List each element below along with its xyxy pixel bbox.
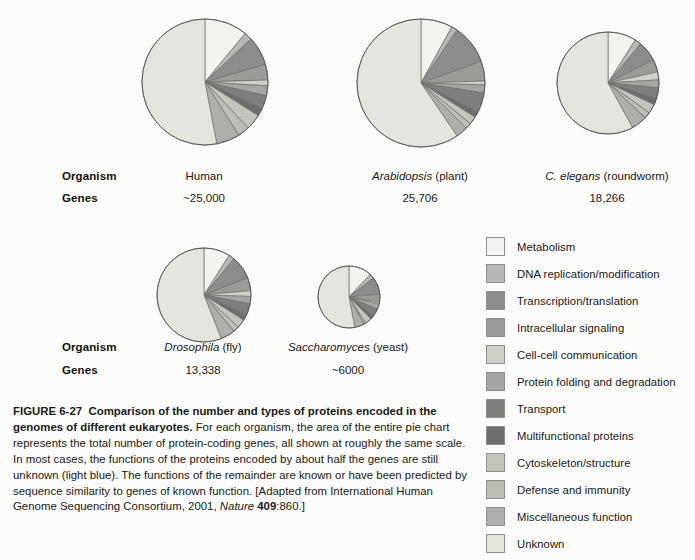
row-label-genes-top: Genes: [62, 192, 98, 204]
row-label-organism-top: Organism: [62, 170, 116, 182]
row-label-organism-bottom: Organism: [62, 341, 116, 353]
pie-chart-drosophila: [156, 247, 252, 343]
legend-label: Transport: [517, 403, 565, 415]
legend-label: Transcription/translation: [517, 295, 638, 307]
source-journal: Nature: [220, 500, 254, 512]
legend-swatch-icon: [486, 318, 505, 337]
organism-common-arabidopsis: (plant): [432, 170, 468, 182]
pie-chart-c-elegans: [556, 31, 660, 135]
legend-label: Cytoskeleton/structure: [517, 457, 631, 469]
legend-item: Multifunctional proteins: [486, 422, 691, 449]
legend-swatch-icon: [486, 264, 505, 283]
legend-label: Protein folding and degradation: [517, 376, 676, 388]
legend-swatch-icon: [486, 534, 505, 553]
organism-common-c-elegans: (roundworm): [600, 170, 668, 182]
legend-item: Unknown: [486, 530, 691, 557]
organism-name-arabidopsis: Arabidopsis (plant): [372, 170, 468, 182]
legend-swatch-icon: [486, 480, 505, 499]
legend-label: Multifunctional proteins: [517, 430, 634, 442]
gene-count-human: ~25,000: [183, 192, 225, 204]
legend-item: Metabolism: [486, 233, 691, 260]
legend-item: Transport: [486, 395, 691, 422]
legend-item: Intracellular signaling: [486, 314, 691, 341]
legend-swatch-icon: [486, 372, 505, 391]
legend-swatch-icon: [486, 291, 505, 310]
source-volume: 409: [257, 500, 276, 512]
gene-count-drosophila: 13,338: [185, 364, 220, 376]
organism-species-c-elegans: C. elegans: [545, 170, 600, 182]
legend-swatch-icon: [486, 237, 505, 256]
pie-chart-arabidopsis: [356, 18, 486, 148]
legend-label: DNA replication/modification: [517, 268, 660, 280]
organism-name-human: Human: [185, 170, 222, 182]
organism-name-c-elegans: C. elegans (roundworm): [545, 170, 668, 182]
legend-label: Cell-cell communication: [517, 349, 637, 361]
legend-item: Defense and immunity: [486, 476, 691, 503]
legend-label: Unknown: [517, 538, 564, 550]
legend-item: Cytoskeleton/structure: [486, 449, 691, 476]
pie-chart-saccharomyces: [317, 265, 381, 329]
legend-label: Metabolism: [517, 241, 575, 253]
chart-legend: MetabolismDNA replication/modificationTr…: [486, 233, 691, 557]
organism-common-drosophila: (fly): [219, 341, 241, 353]
legend-item: Miscellaneous function: [486, 503, 691, 530]
gene-count-arabidopsis: 25,706: [402, 192, 437, 204]
pie-slice: [318, 266, 355, 328]
legend-swatch-icon: [486, 399, 505, 418]
pie-chart-human: [141, 18, 269, 146]
figure-number: FIGURE 6-27: [13, 405, 82, 417]
organism-species-drosophila: Drosophila: [164, 341, 219, 353]
source-pages: :860.]: [276, 500, 305, 512]
legend-item: Protein folding and degradation: [486, 368, 691, 395]
legend-swatch-icon: [486, 453, 505, 472]
legend-label: Miscellaneous function: [517, 511, 632, 523]
organism-species-saccharomyces: Saccharomyces: [288, 341, 370, 353]
organism-common-human: Human: [185, 170, 222, 182]
legend-label: Intracellular signaling: [517, 322, 624, 334]
legend-item: Transcription/translation: [486, 287, 691, 314]
gene-count-c-elegans: 18,266: [589, 192, 624, 204]
legend-item: Cell-cell communication: [486, 341, 691, 368]
legend-swatch-icon: [486, 345, 505, 364]
organism-species-arabidopsis: Arabidopsis: [372, 170, 432, 182]
organism-name-drosophila: Drosophila (fly): [164, 341, 241, 353]
legend-item: DNA replication/modification: [486, 260, 691, 287]
figure-caption: FIGURE 6-27 Comparison of the number and…: [13, 404, 468, 515]
legend-label: Defense and immunity: [517, 484, 630, 496]
figure-body: For each organism, the area of the entir…: [13, 421, 467, 513]
gene-count-saccharomyces: ~6000: [332, 364, 364, 376]
legend-swatch-icon: [486, 426, 505, 445]
organism-name-saccharomyces: Saccharomyces (yeast): [288, 341, 408, 353]
organism-common-saccharomyces: (yeast): [370, 341, 408, 353]
legend-swatch-icon: [486, 507, 505, 526]
figure-page: Organism Genes Human ~25,000 Arabidopsis…: [0, 0, 695, 560]
row-label-genes-bottom: Genes: [62, 364, 98, 376]
